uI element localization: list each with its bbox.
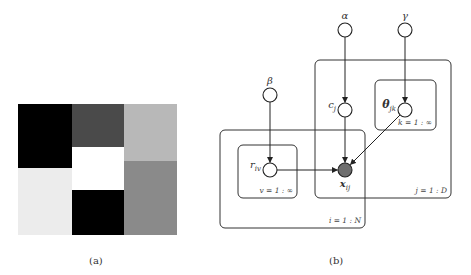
node-x_ij: xij <box>338 163 352 192</box>
plate-label: v = 1 : ∞ <box>259 186 293 195</box>
node-label: α <box>342 10 349 21</box>
panel-b-caption: (b) <box>329 255 343 266</box>
node-label: β <box>266 75 273 86</box>
node-gamma: γ <box>398 10 412 37</box>
plate-label: k = 1 : ∞ <box>398 118 432 127</box>
node-label: riv <box>250 159 261 173</box>
node-c_j: cj <box>328 99 352 117</box>
node-label: xij <box>339 178 351 192</box>
node-label: γ <box>402 10 408 21</box>
plate-label: i = 1 : N <box>329 216 362 225</box>
plate-label: j = 1 : D <box>414 186 447 195</box>
node-beta: β <box>263 75 277 102</box>
node-alpha: α <box>338 10 352 37</box>
graphical-model-diagram: i = 1 : Nv = 1 : ∞j = 1 : Dk = 1 : ∞ αγβ… <box>0 0 471 275</box>
node-r_iv: riv <box>250 159 277 177</box>
node-theta_jk: θjk <box>382 98 412 117</box>
node-label: cj <box>328 99 337 113</box>
node-label: θjk <box>382 98 396 113</box>
plate-j: j = 1 : D <box>315 60 451 198</box>
